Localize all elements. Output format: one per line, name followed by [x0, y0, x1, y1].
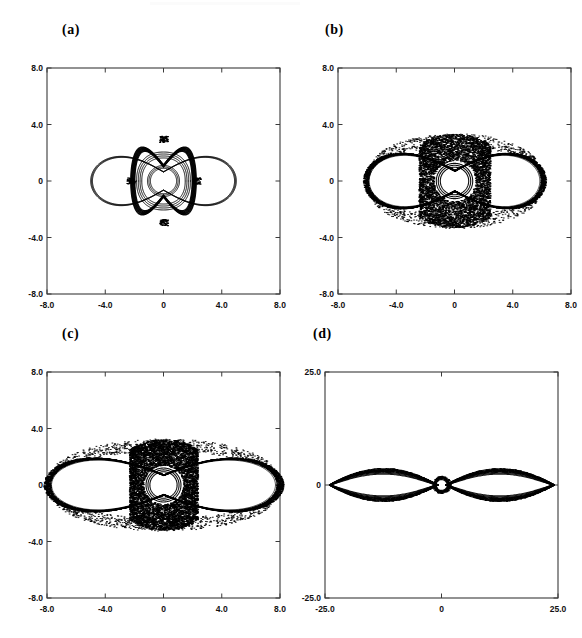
orbit-curve	[447, 471, 553, 498]
orbit-points	[192, 178, 201, 184]
y-axis-tick-label: 8.0	[298, 63, 334, 73]
y-axis-tick-label: 0	[298, 176, 334, 186]
panel-a: (a)8.04.00-4.0-8.0-8.0-4.004.08.0	[0, 0, 291, 318]
orbit-curve	[367, 154, 542, 207]
orbit-curve	[447, 471, 553, 500]
figure-canvas: (a)8.04.00-4.0-8.0-8.0-4.004.08.0(b)8.04…	[0, 0, 582, 638]
plot-frame	[338, 68, 571, 294]
x-axis-tick-label: 0	[420, 604, 464, 614]
y-axis-tick-label: -8.0	[298, 289, 334, 299]
x-axis-tick-label: 25.0	[536, 604, 580, 614]
attractor-a	[91, 136, 237, 225]
y-axis-tick-label: 25.0	[285, 367, 321, 377]
x-axis-tick-label: -4.0	[374, 300, 418, 310]
y-axis-tick-label: -4.0	[7, 537, 43, 547]
orbit-points	[44, 458, 284, 512]
orbit-points	[127, 178, 136, 184]
x-axis-tick-label: -4.0	[83, 300, 127, 310]
orbit-points	[129, 440, 198, 530]
orbit-points	[160, 219, 169, 225]
orbit-curve	[131, 147, 197, 215]
orbit-curve	[149, 167, 178, 195]
y-axis-tick-label: 0	[7, 176, 43, 186]
y-axis-tick-label: -25.0	[285, 593, 321, 603]
orbit-curve	[330, 471, 436, 498]
y-axis-tick-label: 4.0	[7, 424, 43, 434]
y-axis-tick-label: -4.0	[298, 233, 334, 243]
orbit-curve	[49, 459, 279, 511]
plot-frame	[47, 372, 280, 598]
orbit-points	[363, 153, 546, 209]
y-axis-tick-label: 0	[285, 480, 321, 490]
panel-c: (c)8.04.00-4.0-8.0-8.0-4.004.08.0	[0, 320, 291, 638]
y-axis-tick-label: 0	[7, 480, 43, 490]
orbit-curve	[436, 163, 472, 198]
orbit-points	[433, 476, 452, 493]
orbit-points	[160, 136, 169, 142]
plot-frame	[47, 68, 280, 294]
plot-area-c	[0, 320, 291, 638]
plot-area-b	[291, 0, 582, 318]
orbit-curve	[50, 460, 277, 511]
x-axis-tick-label: 4.0	[200, 604, 244, 614]
orbit-curve	[146, 468, 181, 502]
x-axis-tick-label: 0	[142, 300, 186, 310]
y-axis-tick-label: 8.0	[7, 367, 43, 377]
orbit-curve	[147, 165, 179, 196]
plot-frame	[325, 372, 558, 598]
orbit-curve	[368, 155, 541, 207]
y-axis-tick-label: -4.0	[7, 233, 43, 243]
orbit-curve	[330, 471, 436, 500]
plot-area-d	[291, 320, 582, 638]
orbit-curve	[366, 154, 544, 208]
x-axis-tick-label: -4.0	[83, 604, 127, 614]
panel-b: (b)8.04.00-4.0-8.0-8.0-4.004.08.0	[291, 0, 582, 318]
x-axis-tick-label: -8.0	[25, 300, 69, 310]
y-axis-tick-label: 4.0	[7, 120, 43, 130]
y-axis-tick-label: 4.0	[298, 120, 334, 130]
attractor-d	[329, 469, 554, 502]
attractor-b	[363, 134, 546, 228]
y-axis-tick-label: -8.0	[7, 289, 43, 299]
orbit-curve	[91, 156, 237, 205]
attractor-c	[44, 439, 284, 531]
y-axis-tick-label: -8.0	[7, 593, 43, 603]
x-axis-tick-label: -8.0	[316, 300, 360, 310]
y-axis-tick-label: 8.0	[7, 63, 43, 73]
orbit-curve	[47, 459, 280, 512]
x-axis-tick-label: -25.0	[303, 604, 347, 614]
orbit-curve	[134, 150, 194, 212]
x-axis-tick-label: 4.0	[200, 300, 244, 310]
x-axis-tick-label: 8.0	[549, 300, 582, 310]
x-axis-tick-label: 0	[433, 300, 477, 310]
x-axis-tick-label: -8.0	[25, 604, 69, 614]
x-axis-tick-label: 0	[142, 604, 186, 614]
plot-area-a	[0, 0, 291, 318]
x-axis-tick-label: 4.0	[491, 300, 535, 310]
panel-d: (d)25.00-25.0-25.0025.0	[291, 320, 582, 638]
